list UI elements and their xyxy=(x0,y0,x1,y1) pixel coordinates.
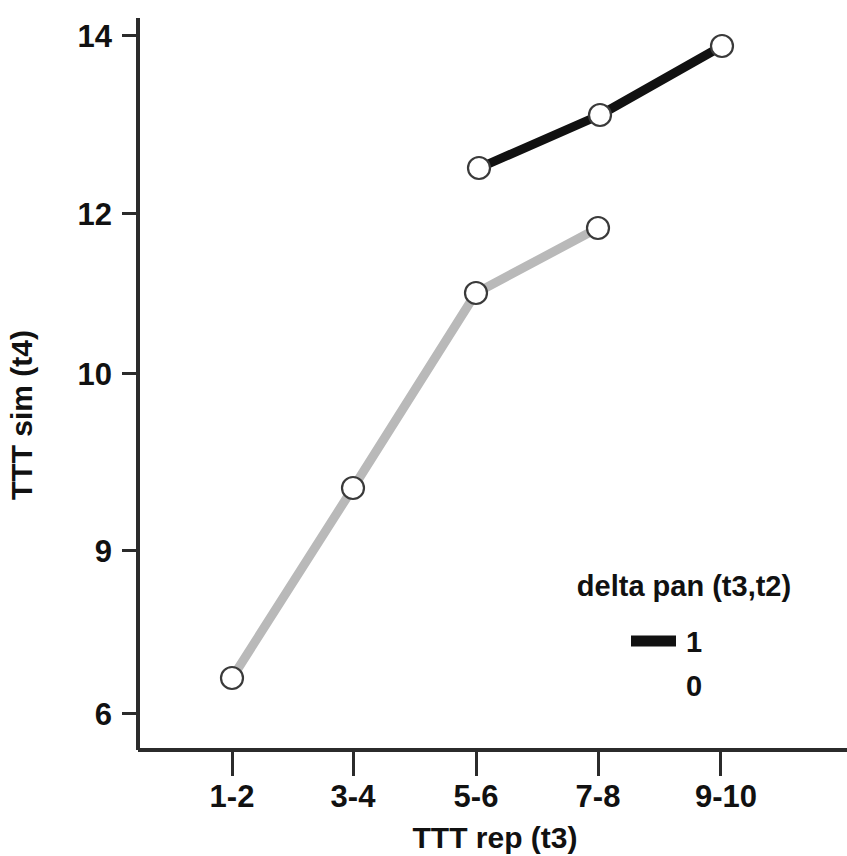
y-tick-label-9: 9 xyxy=(95,534,112,569)
series-1-marker xyxy=(711,35,733,57)
series-1-group xyxy=(468,35,733,179)
y-axis-title: TTT sim (t4) xyxy=(5,330,38,500)
y-tick-marks xyxy=(122,35,138,713)
x-tick-labels: 1-2 3-4 5-6 7-8 9-10 xyxy=(210,779,757,814)
y-tick-label-10: 10 xyxy=(78,357,112,392)
legend-title: delta pan (t3,t2) xyxy=(577,570,791,602)
y-tick-label-6: 6 xyxy=(95,697,112,732)
x-tick-label-3-4: 3-4 xyxy=(331,779,377,814)
x-tick-label-7-8: 7-8 xyxy=(576,779,621,814)
series-0-marker xyxy=(465,282,487,304)
chart-container: 14 12 10 9 6 1-2 3-4 5-6 7-8 9-10 TTT re… xyxy=(0,0,847,856)
x-tick-label-1-2: 1-2 xyxy=(210,779,255,814)
legend: delta pan (t3,t2) 1 0 xyxy=(577,570,791,702)
y-tick-label-12: 12 xyxy=(78,197,112,232)
series-0-marker xyxy=(587,217,609,239)
x-tick-label-5-6: 5-6 xyxy=(454,779,499,814)
legend-label-0: 0 xyxy=(686,670,702,702)
x-axis-title: TTT rep (t3) xyxy=(413,821,578,854)
legend-label-1: 1 xyxy=(686,626,702,658)
y-tick-label-14: 14 xyxy=(78,19,113,54)
series-1-marker xyxy=(589,104,611,126)
line-chart: 14 12 10 9 6 1-2 3-4 5-6 7-8 9-10 TTT re… xyxy=(0,0,847,856)
series-0-group xyxy=(221,217,609,689)
y-tick-labels: 14 12 10 9 6 xyxy=(78,19,113,732)
x-tick-label-9-10: 9-10 xyxy=(695,779,757,814)
axis-group xyxy=(138,18,847,750)
series-0-line xyxy=(232,228,598,678)
x-tick-marks xyxy=(232,750,720,776)
series-0-marker xyxy=(342,477,364,499)
series-0-marker xyxy=(221,667,243,689)
series-1-marker xyxy=(468,157,490,179)
